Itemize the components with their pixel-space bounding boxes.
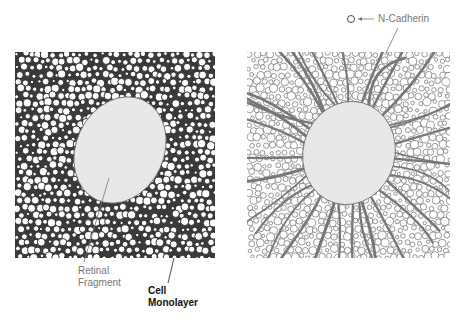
n-cadherin-legend-icon [348,16,355,23]
n-cadherin-illustration [247,52,450,258]
retinal-fragment-label-line2: Fragment [78,277,121,289]
left-panel [15,52,215,258]
cell-monolayer-label-line2: Monolayer [148,297,198,309]
n-cadherin-label: N-Cadherin [378,13,429,25]
n-cadherin-leader [385,28,398,55]
right-panel [247,52,450,258]
retinal-fragment-label: Retinal Fragment [78,265,121,289]
cell-monolayer-label-line1: Cell [148,285,198,297]
arrowhead-icon [358,17,362,21]
cell-monolayer-label: Cell Monolayer [148,285,198,309]
cell-monolayer-leader [168,258,174,283]
cell-monolayer-illustration [15,52,215,258]
retinal-fragment-label-line1: Retinal [78,265,121,277]
